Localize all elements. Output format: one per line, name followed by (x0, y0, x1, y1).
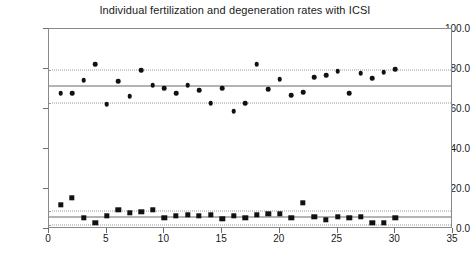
data-point (266, 87, 271, 92)
data-point (381, 70, 386, 75)
x-tick-mark (279, 228, 280, 233)
data-point (358, 71, 363, 76)
data-point (254, 62, 259, 67)
data-point (358, 214, 363, 219)
data-point (104, 102, 109, 107)
data-point (81, 215, 86, 220)
data-point (219, 216, 224, 221)
data-point (289, 93, 294, 98)
data-point (243, 215, 248, 220)
x-tick-mark (106, 228, 107, 233)
plot-area (48, 28, 452, 228)
data-point (116, 79, 121, 84)
data-point (139, 68, 144, 73)
data-point (92, 220, 97, 225)
x-tick-label: 35 (432, 233, 472, 244)
data-point (347, 91, 352, 96)
data-point (381, 220, 386, 225)
data-point (312, 214, 317, 219)
x-tick-label: 0 (28, 233, 68, 244)
x-tick-mark (394, 228, 395, 233)
data-point (346, 215, 351, 220)
data-point (185, 212, 190, 217)
x-tick-label: 5 (86, 233, 126, 244)
data-point (254, 212, 259, 217)
data-point (301, 90, 306, 95)
data-point (231, 109, 236, 114)
data-point (162, 86, 167, 91)
data-point (335, 214, 340, 219)
x-tick-label: 25 (317, 233, 357, 244)
data-point (150, 207, 155, 212)
x-tick-mark (337, 228, 338, 233)
chart-title: Individual fertilization and degeneratio… (0, 4, 470, 16)
data-point (185, 83, 190, 88)
data-point (220, 86, 225, 91)
data-point (300, 200, 305, 205)
data-point (70, 91, 75, 96)
data-point (104, 213, 109, 218)
data-point (93, 62, 98, 67)
data-point (196, 213, 201, 218)
reference-line-fertilization-mean (49, 86, 451, 87)
data-point (393, 215, 398, 220)
x-tick-mark (452, 228, 453, 233)
data-point (335, 69, 340, 74)
x-tick-mark (48, 228, 49, 233)
data-point (266, 211, 271, 216)
data-point (208, 101, 213, 106)
x-tick-label: 10 (143, 233, 183, 244)
data-point (231, 213, 236, 218)
reference-line-fertilization-upper-band (49, 70, 451, 71)
data-point (277, 211, 282, 216)
x-tick-label: 20 (259, 233, 299, 244)
data-point (324, 73, 329, 78)
data-point (151, 83, 156, 88)
data-point (243, 101, 248, 106)
reference-line-degeneration-upper-band (49, 211, 451, 212)
data-point (69, 195, 74, 200)
data-point (208, 212, 213, 217)
x-tick-mark (221, 228, 222, 233)
data-point (58, 202, 63, 207)
data-point (278, 77, 283, 82)
x-tick-mark (163, 228, 164, 233)
data-point (174, 91, 179, 96)
x-tick-label: 30 (374, 233, 414, 244)
data-point (369, 220, 374, 225)
data-point (162, 215, 167, 220)
data-point (139, 209, 144, 214)
data-point (127, 210, 132, 215)
data-point (116, 207, 121, 212)
reference-line-degeneration-lower-band (49, 224, 451, 225)
data-point (323, 217, 328, 222)
data-point (128, 94, 133, 99)
data-point (173, 213, 178, 218)
data-point (312, 75, 317, 80)
data-point (81, 78, 86, 83)
x-tick-label: 15 (201, 233, 241, 244)
data-point (197, 88, 202, 93)
data-point (370, 76, 375, 81)
data-point (58, 91, 63, 96)
data-point (393, 67, 398, 72)
plot-inner (49, 29, 451, 227)
data-point (289, 215, 294, 220)
reference-line-fertilization-lower-band (49, 103, 451, 104)
